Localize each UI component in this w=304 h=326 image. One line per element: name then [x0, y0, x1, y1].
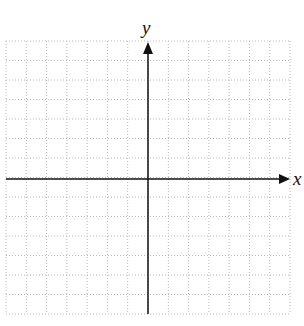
grid-and-axes — [0, 0, 304, 326]
y-axis-label: y — [142, 18, 150, 37]
y-axis-arrow-icon — [143, 42, 153, 54]
x-axis-arrow-icon — [279, 174, 290, 184]
x-axis-label: x — [293, 169, 301, 188]
